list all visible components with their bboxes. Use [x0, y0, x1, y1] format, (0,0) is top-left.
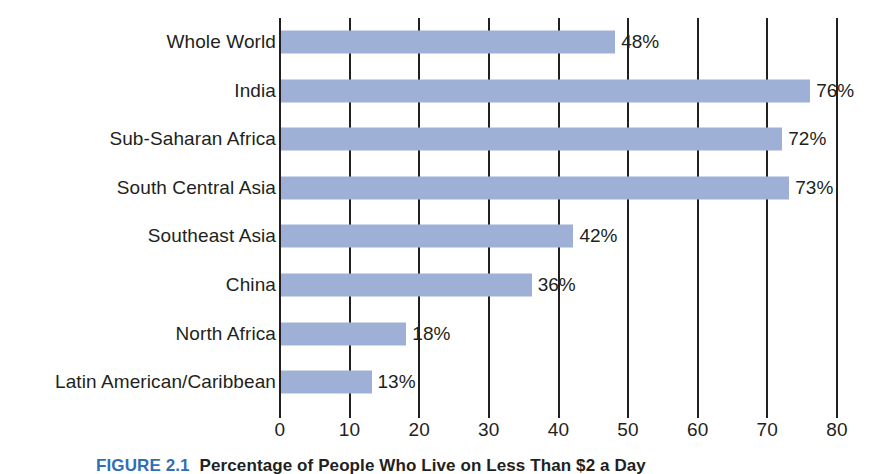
bar [281, 176, 789, 199]
bar-row: South Central Asia73% [0, 164, 881, 212]
category-label: Sub-Saharan Africa [109, 128, 276, 150]
x-tick-label-80: 80 [807, 419, 867, 441]
bar-value-label: 72% [788, 128, 826, 150]
bar-value-label: 13% [378, 371, 416, 393]
bar-row: Southeast Asia42% [0, 212, 881, 260]
x-tick-80 [836, 405, 838, 418]
x-tick-40 [558, 405, 560, 418]
x-tick-20 [418, 405, 420, 418]
x-tick-30 [488, 405, 490, 418]
x-tick-70 [766, 405, 768, 418]
bar-value-label: 76% [816, 80, 854, 102]
x-tick-label-30: 30 [459, 419, 519, 441]
category-label: China [226, 274, 276, 296]
x-tick-label-0: 0 [250, 419, 310, 441]
x-tick-label-10: 10 [320, 419, 380, 441]
bar-value-label: 42% [579, 225, 617, 247]
x-tick-label-70: 70 [737, 419, 797, 441]
bar [281, 371, 372, 394]
figure-number: FIGURE 2.1 [96, 456, 190, 474]
category-label: South Central Asia [117, 177, 276, 199]
figure-title: Percentage of People Who Live on Less Th… [200, 456, 646, 474]
bar [281, 225, 573, 248]
bar-row: Latin American/Caribbean13% [0, 358, 881, 406]
x-tick-50 [627, 405, 629, 418]
category-label: Southeast Asia [148, 225, 276, 247]
x-tick-60 [697, 405, 699, 418]
bar [281, 274, 532, 297]
x-tick-10 [349, 405, 351, 418]
bar-value-label: 48% [621, 31, 659, 53]
bar-row: Sub-Saharan Africa72% [0, 115, 881, 163]
bar-value-label: 73% [795, 177, 833, 199]
bar [281, 31, 615, 54]
figure-container: 01020304050607080Whole World48%India76%S… [0, 0, 881, 474]
x-tick-label-20: 20 [389, 419, 449, 441]
bar-value-label: 36% [538, 274, 576, 296]
bar-row: China36% [0, 261, 881, 309]
bar [281, 79, 810, 102]
bar-row: India76% [0, 67, 881, 115]
category-label: India [234, 80, 276, 102]
bar-value-label: 18% [412, 323, 450, 345]
x-tick-label-40: 40 [529, 419, 589, 441]
bar [281, 128, 782, 151]
x-tick-label-60: 60 [668, 419, 728, 441]
chart-plot-area: 01020304050607080Whole World48%India76%S… [0, 0, 881, 436]
bar-row: North Africa18% [0, 310, 881, 358]
x-tick-label-50: 50 [598, 419, 658, 441]
category-label: North Africa [176, 323, 276, 345]
x-tick-0 [279, 405, 281, 418]
category-label: Whole World [166, 31, 276, 53]
category-label: Latin American/Caribbean [55, 371, 276, 393]
bar-row: Whole World48% [0, 18, 881, 66]
figure-caption: FIGURE 2.1Percentage of People Who Live … [96, 455, 856, 474]
bar [281, 322, 406, 345]
